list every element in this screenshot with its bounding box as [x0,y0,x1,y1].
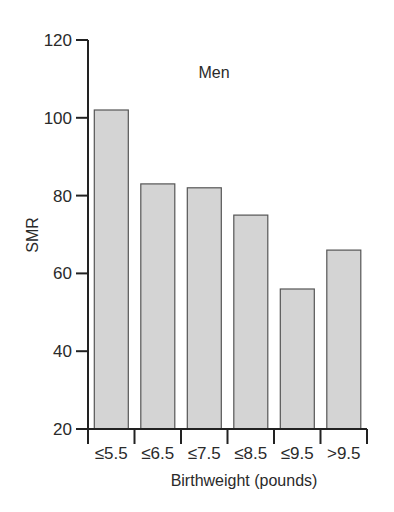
y-tick-label: 40 [53,342,72,361]
bar-0 [94,110,128,429]
y-axis-title: SMR [24,217,41,253]
bar-2 [187,188,221,429]
bar-1 [141,184,175,429]
bar-5 [327,250,361,429]
y-tick-label: 120 [44,31,72,50]
bar-chart: 20406080100120≤5.5≤6.5≤7.5≤8.5≤9.5>9.5 M… [0,0,394,512]
chart-title: Men [198,64,229,81]
x-tick-label: ≤7.5 [188,444,221,463]
x-tick-label: ≤6.5 [141,444,174,463]
bar-4 [280,289,314,429]
x-axis-title: Birthweight (pounds) [171,472,318,489]
bar-3 [234,215,268,429]
y-tick-label: 60 [53,264,72,283]
x-tick-label: ≤8.5 [234,444,267,463]
x-tick-label: >9.5 [327,444,361,463]
y-tick-label: 80 [53,187,72,206]
bars [94,110,361,429]
y-tick-label: 100 [44,109,72,128]
y-tick-label: 20 [53,420,72,439]
x-tick-label: ≤5.5 [95,444,128,463]
x-tick-label: ≤9.5 [281,444,314,463]
